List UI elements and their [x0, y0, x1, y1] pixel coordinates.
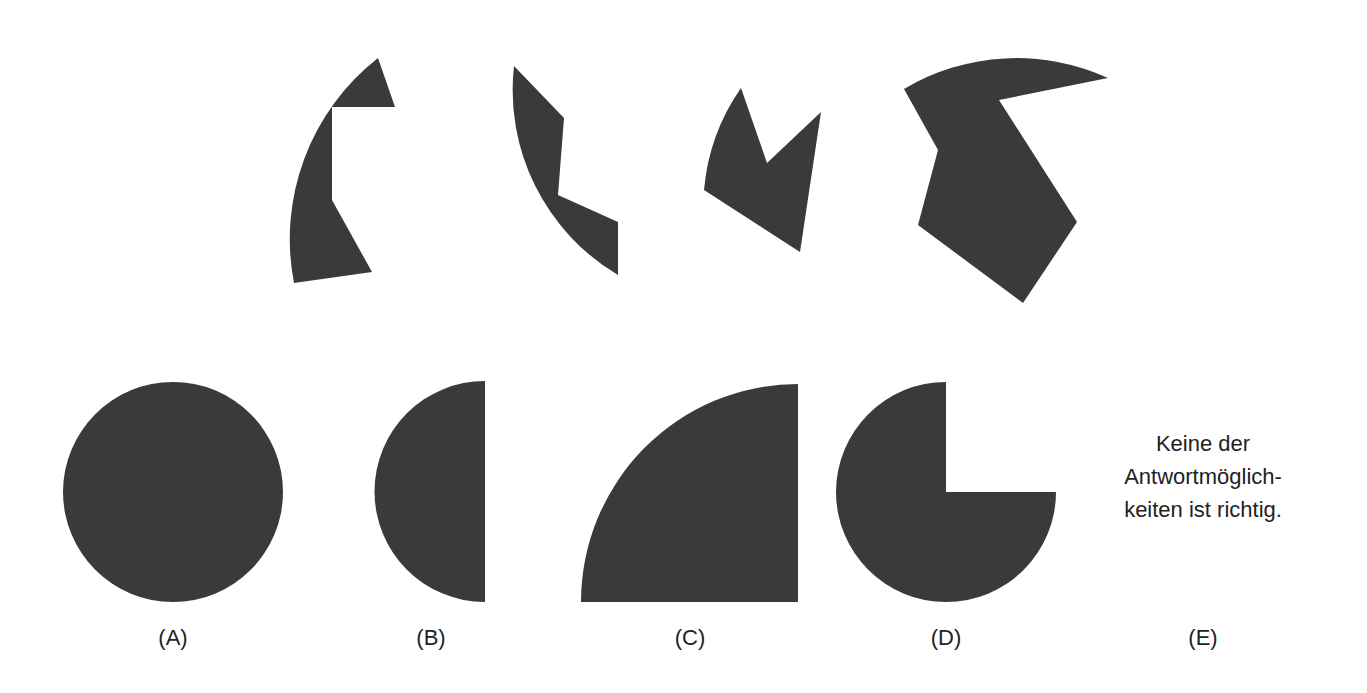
option-b-half-circle[interactable] — [375, 381, 485, 602]
option-e-line-2: Antwortmöglich- — [1124, 460, 1282, 493]
option-c-label: (C) — [675, 625, 706, 651]
puzzle-piece-1 — [290, 58, 395, 283]
option-d-three-quarter-circle[interactable] — [836, 382, 1056, 602]
puzzle-piece-2 — [513, 66, 618, 275]
option-e-line-1: Keine der — [1124, 427, 1282, 460]
option-b-label: (B) — [416, 625, 445, 651]
puzzle-piece-4 — [904, 58, 1108, 303]
option-e-label: (E) — [1188, 625, 1217, 651]
option-a-full-circle[interactable] — [63, 382, 283, 602]
option-d-label: (D) — [931, 625, 962, 651]
option-e-text[interactable]: Keine der Antwortmöglich- keiten ist ric… — [1124, 427, 1282, 526]
option-a-label: (A) — [158, 625, 187, 651]
option-e-line-3: keiten ist richtig. — [1124, 493, 1282, 526]
option-c-quarter-circle[interactable] — [581, 384, 798, 602]
figure-canvas — [0, 0, 1367, 693]
puzzle-piece-3 — [704, 88, 821, 252]
